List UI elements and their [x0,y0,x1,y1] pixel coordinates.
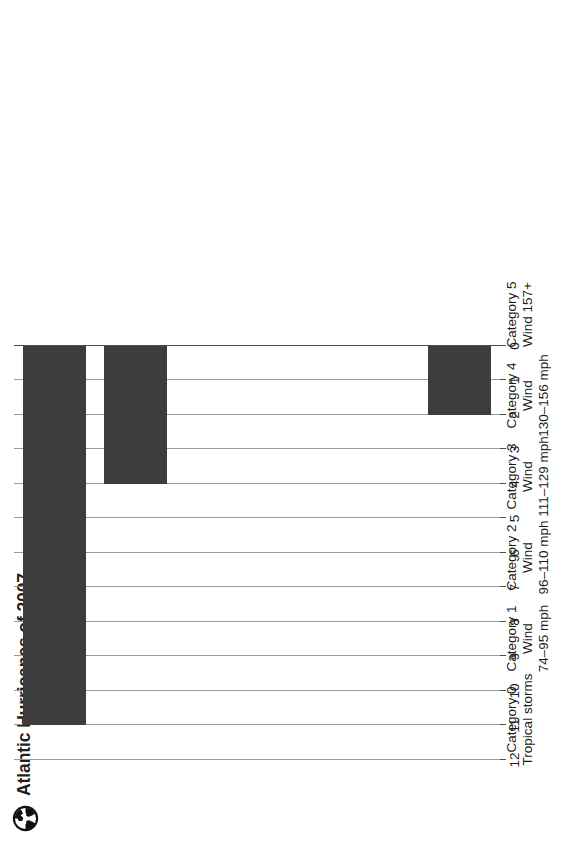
gridline [14,518,500,519]
category-label-line: Category 4 [504,354,520,437]
category-label-line: 130–156 mph [536,354,552,437]
gridline [14,483,500,484]
category-label-5: Category 5Wind 157+ [504,281,536,347]
category-label-2: Category 2Wind96–110 mph [504,520,553,594]
category-label-line: 74–95 mph [536,605,552,673]
category-label-0: Category 0Tropical storms [504,674,536,766]
gridline [14,725,500,726]
gridline [14,587,500,588]
category-label-line: Wind [520,605,536,673]
bar-0 [23,346,86,726]
gridline [14,449,500,450]
category-label-line: Category 2 [504,520,520,594]
category-label-line: Category 3 [504,436,520,517]
category-label-line: Category 1 [504,605,520,673]
category-label-1: Category 1Wind74–95 mph [504,605,553,673]
gridline [14,656,500,657]
category-label-line: Category 5 [504,281,520,347]
gridline [14,621,500,622]
category-axis: Category 0Tropical stormsCategory 1Wind7… [504,346,579,760]
category-label-line: 96–110 mph [536,520,552,594]
category-label-line: Category 0 [504,674,520,766]
gridline [14,690,500,691]
category-label-4: Category 4Wind130–156 mph [504,354,553,437]
category-label-line: Wind [520,520,536,594]
category-label-line: Wind [520,354,536,437]
category-label-3: Category 3Wind111–129 mph [504,436,553,517]
cyclone-icon [12,805,39,832]
category-label-line: Tropical storms [520,674,536,766]
bar-1 [104,346,167,484]
gridline [14,759,500,760]
category-label-line: 111–129 mph [536,436,552,517]
chart-canvas: Atlantic Hurricanes of 2007 121110987654… [0,0,579,846]
plot-area [14,346,500,760]
bar-5 [428,346,491,415]
category-label-line: Wind [520,436,536,517]
category-label-line: Wind 157+ [520,281,536,347]
gridline [14,552,500,553]
